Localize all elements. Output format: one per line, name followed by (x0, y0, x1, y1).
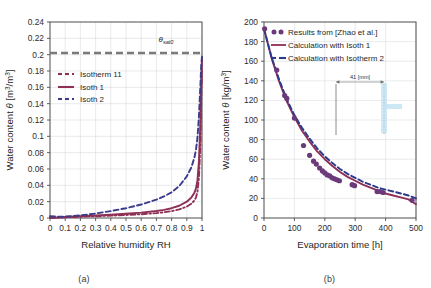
ytick-label: 0.12 (28, 115, 45, 125)
ytick-label: 0.06 (28, 164, 45, 174)
chart-b-ylabel: Water content θ [kg/m3] (220, 70, 232, 170)
chart-a-legend: Isotherm 11 Isoth 1 Isoth 2 (58, 70, 122, 104)
chart-b-inset: 41 [mm] (336, 74, 402, 135)
chart-b-markers (262, 26, 415, 203)
theta-sat0-annotation: θsat0 (159, 35, 175, 45)
legend-item-calc-isoth-1: Calculation with Isoth 1 (271, 41, 371, 50)
data-point-marker (352, 183, 357, 188)
xtick-label: 0.1 (59, 223, 71, 233)
legend-label-results-zhao: Results from [Zhao et al.] (288, 28, 377, 37)
data-point-marker (284, 96, 289, 101)
legend-label-isotherm-11: Isotherm 11 (80, 70, 122, 79)
ytick-label: 80 (249, 135, 259, 145)
xtick-label: 0 (48, 223, 53, 233)
ytick-label: 0.24 (28, 17, 45, 27)
legend-item-results-zhao: Results from [Zhao et al.] (272, 28, 378, 37)
xtick-label: 0.4 (105, 223, 117, 233)
ytick-label: 0 (39, 213, 44, 223)
chart-b-xlabel: Evaporation time [h] (297, 239, 382, 250)
chart-b-svg: 0100200300400500020406080100120140160180… (216, 0, 431, 288)
chart-b-gridlines (264, 22, 416, 218)
legend-item-calc-isotherm-2: Calculation with Isotherm 2 (271, 54, 385, 63)
xtick-label: 0.8 (166, 223, 178, 233)
data-point-marker (381, 190, 386, 195)
xtick-label: 1 (200, 223, 205, 233)
xtick-label: 0.2 (75, 223, 87, 233)
ytick-label: 200 (244, 17, 258, 27)
inset-dimension-label: 41 [mm] (350, 74, 371, 80)
ytick-label: 0.08 (28, 148, 45, 158)
legend-label-calc-isoth-1: Calculation with Isoth 1 (288, 41, 371, 50)
ytick-label: 100 (244, 115, 258, 125)
data-point-marker (262, 26, 267, 31)
subplot-label-b: (b) (222, 274, 431, 284)
xtick-label: 400 (379, 223, 393, 233)
ytick-label: 60 (249, 154, 259, 164)
ytick-label: 0 (253, 213, 258, 223)
xtick-label: 0.9 (181, 223, 193, 233)
data-point-marker (274, 67, 279, 72)
ytick-label: 0.1 (32, 131, 44, 141)
ytick-label: 160 (244, 56, 258, 66)
ytick-label: 120 (244, 95, 258, 105)
data-point-marker (301, 143, 306, 148)
ytick-label: 0.14 (28, 99, 45, 109)
ytick-label: 0.18 (28, 66, 45, 76)
legend-label-isoth-2: Isoth 2 (80, 95, 105, 104)
panel-a: 00.10.20.30.40.50.60.70.80.9100.020.040.… (0, 0, 216, 288)
chart-b-legend: Results from [Zhao et al.] Calculation w… (271, 28, 385, 63)
ytick-label: 0.04 (28, 180, 45, 190)
data-point-marker (409, 198, 414, 203)
chart-a-gridlines (50, 22, 202, 218)
xtick-label: 0.6 (135, 223, 147, 233)
panel-b: 0100200300400500020406080100120140160180… (216, 0, 431, 288)
xtick-label: 200 (318, 223, 332, 233)
chart-a-svg: 00.10.20.30.40.50.60.70.80.9100.020.040.… (0, 0, 216, 288)
data-point-marker (307, 153, 312, 158)
ytick-label: 140 (244, 76, 258, 86)
xtick-label: 0 (262, 223, 267, 233)
figure-container: 00.10.20.30.40.50.60.70.80.9100.020.040.… (0, 0, 431, 288)
ytick-label: 0.2 (32, 50, 44, 60)
ytick-label: 180 (244, 37, 258, 47)
data-point-marker (337, 178, 342, 183)
ytick-label: 20 (249, 193, 259, 203)
xtick-label: 300 (348, 223, 362, 233)
ytick-label: 0.02 (28, 197, 45, 207)
ytick-label: 0.22 (28, 33, 45, 43)
xtick-label: 500 (409, 223, 423, 233)
xtick-label: 0.5 (120, 223, 132, 233)
subplot-label-a: (a) (0, 274, 192, 284)
xtick-label: 0.7 (151, 223, 163, 233)
xtick-label: 100 (287, 223, 301, 233)
legend-item-isotherm-11: Isotherm 11 (58, 70, 122, 79)
legend-label-isoth-1: Isoth 1 (80, 83, 105, 92)
chart-a-xlabel: Relative humidity RH (81, 239, 171, 250)
chart-a-ticks: 00.10.20.30.40.50.60.70.80.9100.020.040.… (28, 17, 205, 233)
legend-label-calc-isotherm-2: Calculation with Isotherm 2 (288, 54, 385, 63)
ytick-label: 0.16 (28, 82, 45, 92)
chart-a-ylabel: Water content θ [m3/m3] (4, 69, 16, 170)
data-point-marker (292, 115, 297, 120)
ytick-label: 40 (249, 174, 259, 184)
xtick-label: 0.3 (90, 223, 102, 233)
